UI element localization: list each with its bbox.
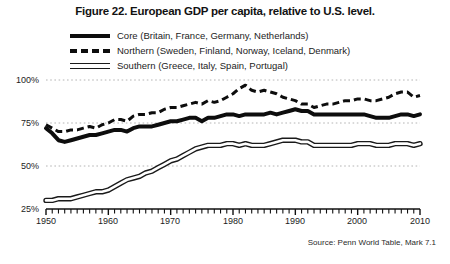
x-tick-label-2000: 2000 [337,216,377,226]
x-tick-label-1970: 1970 [150,216,190,226]
y-tick-label-50: 50% [5,161,39,171]
x-tick-label-1990: 1990 [275,216,315,226]
x-tick-label-1960: 1960 [88,216,128,226]
y-tick-label-100: 100% [5,75,39,85]
series-line-southern [46,140,420,200]
x-tick-label-1980: 1980 [213,216,253,226]
figure-container: Figure 22. European GDP per capita, rela… [0,0,450,264]
y-tick-label-75: 75% [5,118,39,128]
source-note: Source: Penn World Table, Mark 7.1 [308,238,436,247]
series-line-northern [46,85,420,131]
x-tick-label-2010: 2010 [400,216,440,226]
y-tick-label-25: 25% [5,204,39,214]
x-tick-label-1950: 1950 [26,216,66,226]
